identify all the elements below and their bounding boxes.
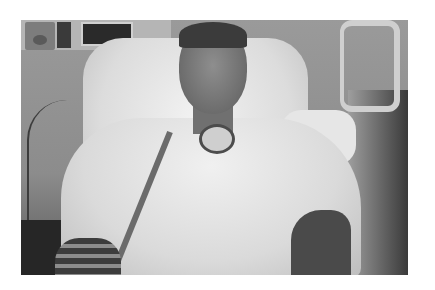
bandaged-forearm xyxy=(55,238,121,275)
bed-rail xyxy=(340,20,400,112)
wall-outlet xyxy=(57,22,71,48)
wall-medical-panel xyxy=(25,22,55,50)
tracheostomy-tube xyxy=(199,124,235,154)
arm xyxy=(291,210,351,275)
gauge-dial xyxy=(33,35,47,45)
hair xyxy=(179,22,247,48)
photograph xyxy=(21,20,408,275)
